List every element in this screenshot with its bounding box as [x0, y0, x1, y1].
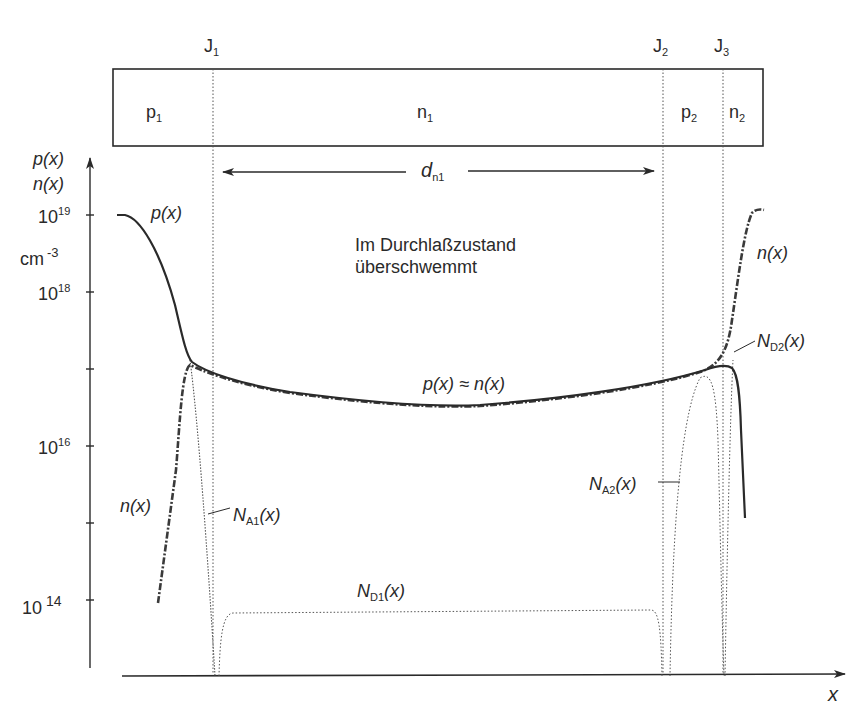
label-p-left: p(x) [151, 204, 182, 222]
layer-structure-box [113, 69, 763, 146]
y-axis-label-p: p(x) [33, 150, 64, 168]
leader-na1 [208, 508, 230, 514]
y-tick-label-1e16: 1016 [38, 437, 70, 457]
y-tick-label-1e19: 1019 [38, 206, 70, 226]
approx-annotation: p(x) ≈ n(x) [423, 375, 505, 393]
region-label-n1: n1 [417, 103, 433, 124]
curve-nd1 [219, 610, 662, 676]
junction-label-j3: J3 [714, 37, 729, 58]
label-n-left: n(x) [120, 497, 151, 515]
x-axis-label: x [828, 684, 838, 704]
y-tick-label-1e14: 1014 [22, 594, 62, 617]
curve-na1 [190, 360, 215, 676]
label-n-right: n(x) [757, 244, 788, 262]
label-nd1: ND1(x) [357, 582, 405, 603]
junction-lines [213, 69, 723, 673]
y-tick-label-1e18: 1018 [38, 283, 70, 303]
label-nd2: ND2(x) [757, 332, 805, 353]
leader-nd2 [734, 341, 755, 352]
curve-nd2 [725, 360, 733, 676]
state-annotation: Im Durchlaßzustand überschwemmt [355, 234, 516, 278]
y-axis-label-n: n(x) [33, 175, 64, 193]
junction-label-j2: J2 [653, 37, 668, 58]
x-axis [122, 674, 845, 676]
y-axis-unit: cm-3 [20, 246, 59, 268]
region-label-n2: n2 [729, 103, 745, 124]
region-label-p1: p1 [146, 103, 162, 124]
dimension-label-dn1: dn1 [421, 160, 444, 183]
region-label-p2: p2 [681, 103, 697, 124]
junction-label-j1: J1 [204, 37, 219, 58]
curve-na2 [670, 376, 724, 676]
label-na2: NA2(x) [589, 475, 636, 496]
label-na1: NA1(x) [233, 506, 280, 527]
